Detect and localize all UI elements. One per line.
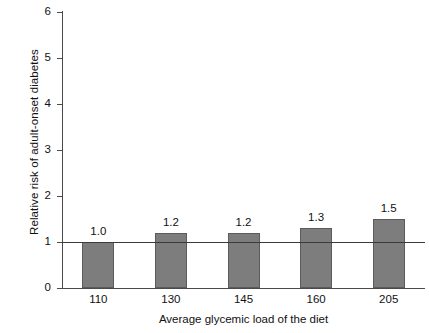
y-axis-tick-mark [57,58,62,59]
y-axis-tick-mark [57,196,62,197]
x-axis-tick-label: 205 [359,294,419,306]
y-axis-tick-label: 2 [5,190,51,202]
bar [82,242,114,288]
y-axis-tick-mark [57,104,62,105]
x-axis-tick-label: 110 [68,294,128,306]
bar-value-label: 1.2 [141,217,201,229]
bar-value-label: 1.3 [286,212,346,224]
bar [373,219,405,288]
x-axis-tick-label: 145 [214,294,274,306]
bar-value-label: 1.2 [214,217,274,229]
x-axis-tick-label: 160 [286,294,346,306]
y-axis-tick-label: 6 [5,6,51,18]
x-axis-tick-label: 130 [141,294,201,306]
y-axis-tick-mark [57,150,62,151]
y-axis-tick-label: 0 [5,282,51,294]
y-axis-tick-mark [57,288,62,289]
x-axis-line [62,288,425,289]
y-axis-tick-mark [57,12,62,13]
y-axis-tick-label: 1 [5,236,51,248]
bar-value-label: 1.0 [68,226,128,238]
bar-value-label: 1.5 [359,203,419,215]
y-axis-line [62,11,63,289]
reference-line-at-one [62,242,425,243]
bar-chart: Relative risk of adult-onset diabetes 01… [0,0,429,333]
bar [300,228,332,288]
x-axis-title: Average glycemic load of the diet [62,313,425,325]
y-axis-tick-label: 4 [5,98,51,110]
y-axis-tick-label: 3 [5,144,51,156]
y-axis-tick-label: 5 [5,52,51,64]
